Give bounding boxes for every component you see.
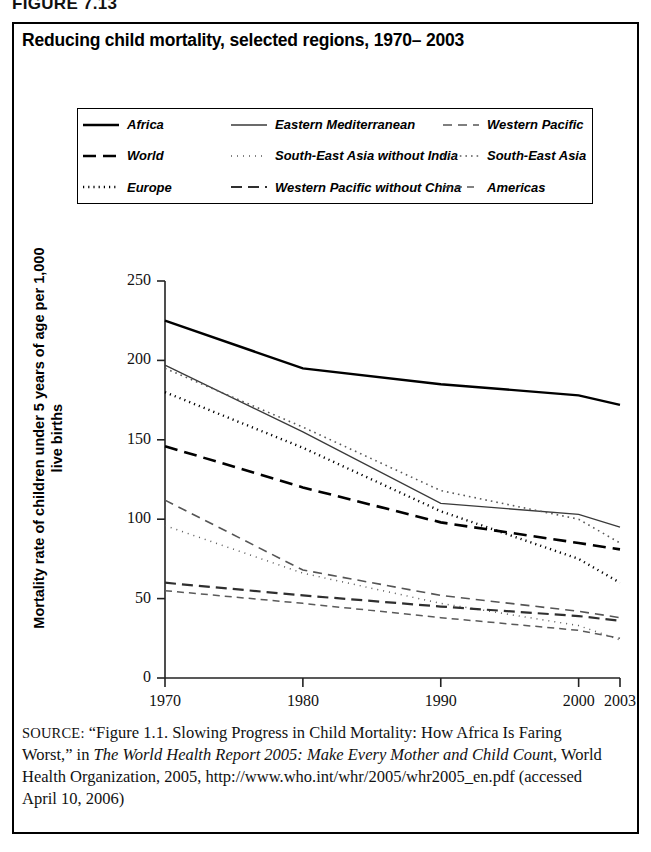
legend-label: Africa (127, 117, 164, 132)
legend-line-swatch (442, 150, 480, 162)
x-tick-label: 2003 (590, 692, 650, 710)
legend-line-swatch (230, 150, 268, 162)
legend-label: Eastern Mediterranean (275, 117, 415, 132)
legend-grid: AfricaEastern MediterraneanWestern Pacif… (78, 109, 592, 203)
legend-label: Western Pacific (487, 117, 584, 132)
y-tick-label: 100 (107, 509, 151, 527)
legend-label: Americas (487, 180, 546, 195)
legend-label: South-East Asia (487, 148, 586, 163)
legend-item: Europe (82, 180, 230, 195)
legend-item: Western Pacific without China (230, 180, 442, 195)
legend-line-swatch (82, 181, 120, 193)
source-label: SOURCE: (22, 725, 85, 741)
y-tick-label: 250 (107, 271, 151, 289)
x-tick-label: 1990 (411, 692, 471, 710)
y-tick-label: 50 (107, 589, 151, 607)
x-tick-label: 1980 (273, 692, 333, 710)
legend-item: South-East Asia without India (230, 148, 442, 163)
legend-label: World (127, 148, 164, 163)
legend-item: Americas (442, 180, 598, 195)
legend-item: Eastern Mediterranean (230, 117, 442, 132)
chart-title: Reducing child mortality, selected regio… (22, 30, 464, 51)
y-tick-label: 200 (107, 350, 151, 368)
legend-label: South-East Asia without India (275, 148, 458, 163)
source-text-italic: The World Health Report 2005: Make Every… (94, 745, 549, 764)
legend-line-swatch (230, 119, 268, 131)
legend-item: World (82, 148, 230, 163)
legend-label: Europe (127, 180, 172, 195)
y-axis-title: Mortality rate of children under 5 years… (30, 238, 66, 638)
chart-legend: AfricaEastern MediterraneanWestern Pacif… (77, 108, 593, 204)
y-tick-label: 0 (107, 668, 151, 686)
legend-item: South-East Asia (442, 148, 598, 163)
source-citation: SOURCE: “Figure 1.1. Slowing Progress in… (22, 722, 614, 810)
legend-label: Western Pacific without China (275, 180, 461, 195)
legend-line-swatch (442, 119, 480, 131)
legend-item: Africa (82, 117, 230, 132)
legend-item: Western Pacific (442, 117, 598, 132)
legend-line-swatch (230, 181, 268, 193)
legend-line-swatch (442, 181, 480, 193)
figure-number: FIGURE 7.13 (12, 0, 117, 14)
x-tick-label: 1970 (135, 692, 195, 710)
y-tick-label: 150 (107, 430, 151, 448)
legend-line-swatch (82, 119, 120, 131)
legend-line-swatch (82, 150, 120, 162)
